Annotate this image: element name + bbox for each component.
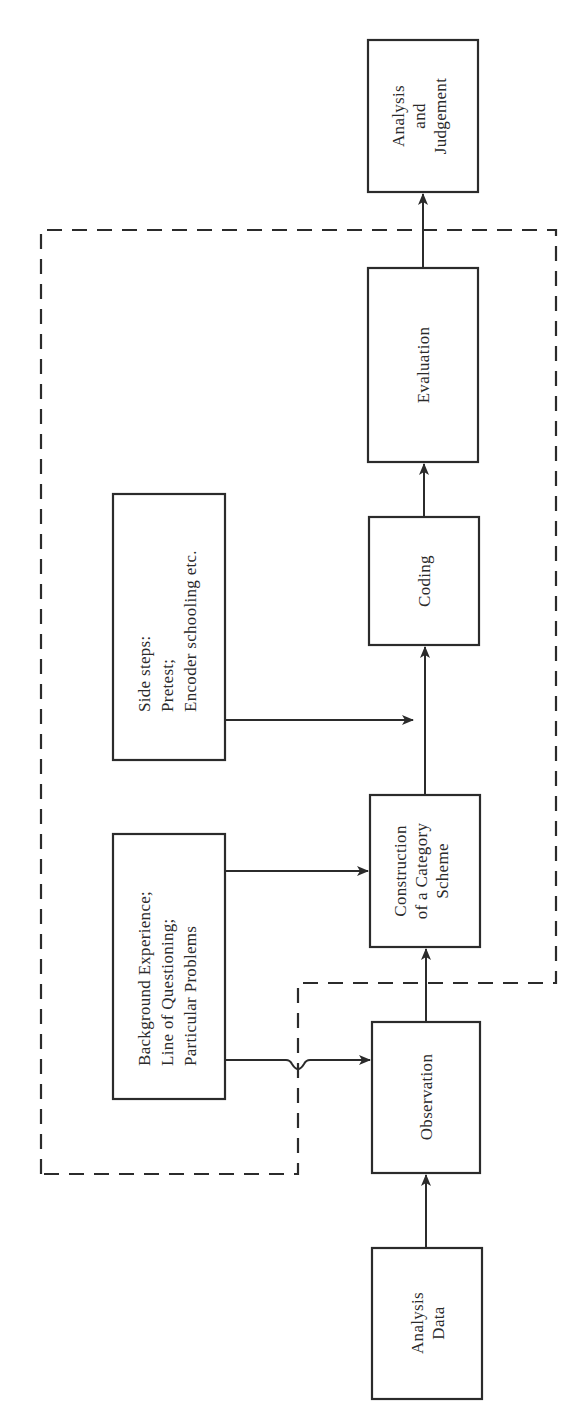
svg-text:Judgement: Judgement	[431, 78, 450, 154]
svg-text:Encoder schooling etc.: Encoder schooling etc.	[181, 550, 200, 712]
svg-text:and: and	[410, 103, 429, 129]
coding-label: Coding	[415, 555, 434, 607]
svg-text:Coding: Coding	[415, 555, 434, 607]
analysis-data-box	[372, 1248, 482, 1399]
content-analysis-flow-diagram: Analysis and Judgement Evaluation Coding…	[0, 0, 582, 1416]
svg-text:Observation: Observation	[417, 1054, 436, 1141]
svg-text:Particular Problems: Particular Problems	[181, 926, 200, 1066]
svg-text:Analysis: Analysis	[389, 85, 408, 147]
svg-text:Line of Questioning;: Line of Questioning;	[158, 918, 177, 1066]
evaluation-label: Evaluation	[414, 326, 433, 403]
svg-text:Construction: Construction	[391, 825, 410, 917]
svg-text:of a Category: of a Category	[412, 823, 431, 920]
svg-text:Evaluation: Evaluation	[414, 326, 433, 403]
svg-text:Side steps:: Side steps:	[135, 636, 154, 713]
side-steps-box	[113, 494, 225, 760]
svg-text:Data: Data	[429, 1306, 448, 1339]
svg-text:Analysis: Analysis	[408, 1292, 427, 1354]
observation-label: Observation	[417, 1054, 436, 1141]
svg-text:Pretest;: Pretest;	[158, 659, 177, 712]
svg-text:Scheme: Scheme	[433, 843, 452, 899]
svg-text:Background Experience;: Background Experience;	[135, 891, 154, 1066]
